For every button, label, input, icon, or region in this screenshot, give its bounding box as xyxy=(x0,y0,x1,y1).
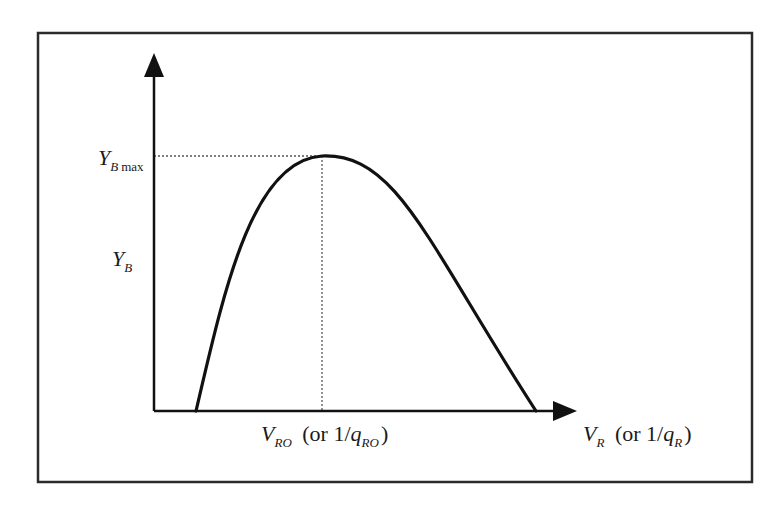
y-max-subscript: B xyxy=(110,159,118,174)
x-axis-paren-close: ) xyxy=(684,421,691,446)
x-axis-label: VR (or 1/qR) xyxy=(583,423,691,449)
x-peak-symbol: V xyxy=(261,421,274,446)
y-axis-subscript: B xyxy=(124,260,132,275)
x-peak-q-subscript: RO xyxy=(362,435,379,450)
x-axis-paren-open: (or 1/ xyxy=(615,421,663,446)
y-axis-arrow-icon xyxy=(144,53,164,77)
x-peak-label: VRO (or 1/qRO) xyxy=(261,423,388,449)
figure-frame xyxy=(38,33,752,482)
x-peak-subscript: RO xyxy=(274,435,291,450)
y-max-subscript-max: max xyxy=(121,159,143,174)
y-max-symbol: Y xyxy=(98,145,110,170)
y-axis-symbol: Y xyxy=(112,246,124,271)
y-axis-label: YB xyxy=(112,248,132,274)
x-peak-q-symbol: q xyxy=(351,421,362,446)
x-axis-q-subscript: R xyxy=(674,435,682,450)
x-axis-q-symbol: q xyxy=(663,421,674,446)
x-peak-paren-close: ) xyxy=(381,421,388,446)
x-axis-subscript: R xyxy=(596,435,604,450)
yield-curve xyxy=(196,156,536,411)
y-max-label: YBmax xyxy=(98,147,144,173)
x-peak-paren-open: (or 1/ xyxy=(302,421,350,446)
diagram-stage: YBmax YB VRO (or 1/qRO) VR (or 1/qR) xyxy=(0,0,782,509)
x-axis-symbol: V xyxy=(583,421,596,446)
x-axis-arrow-icon xyxy=(553,401,577,421)
